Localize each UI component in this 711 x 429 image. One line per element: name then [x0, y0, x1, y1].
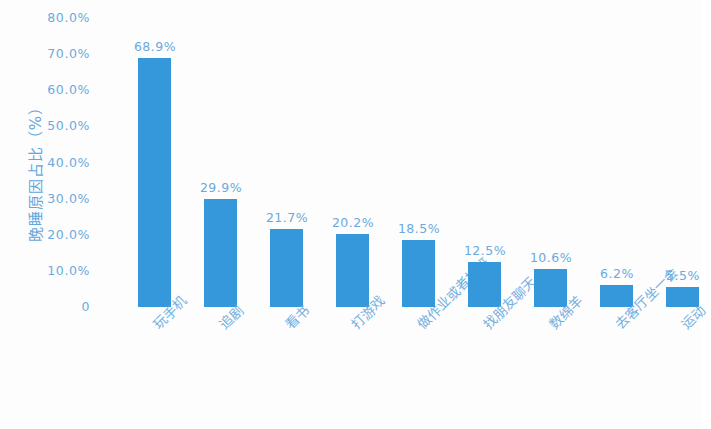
- bar[interactable]: [336, 234, 369, 307]
- bar-value-label: 18.5%: [378, 221, 460, 236]
- y-axis-tick-label: 60.0%: [6, 82, 90, 97]
- bar-group: 20.2%打游戏: [320, 0, 386, 429]
- y-axis-tick-label: 10.0%: [6, 263, 90, 278]
- bar-group: 6.2%去客厅坐一会: [584, 0, 650, 429]
- y-axis-tick-label: 20.0%: [6, 227, 90, 242]
- bar-group: 18.5%做作业或者加班: [386, 0, 452, 429]
- plot-area: 68.9%玩手机29.9%追剧21.7%看书20.2%打游戏18.5%做作业或者…: [96, 0, 701, 429]
- bar[interactable]: [204, 199, 237, 307]
- bar-group: 10.6%数绵羊: [518, 0, 584, 429]
- bar-group: 5.5%运动: [650, 0, 711, 429]
- bar-group: 12.5%找朋友聊天: [452, 0, 518, 429]
- y-axis-tick-label: 0: [6, 299, 90, 314]
- bar-value-label: 29.9%: [180, 180, 262, 195]
- bar[interactable]: [402, 240, 435, 307]
- bar-value-label: 10.6%: [510, 250, 592, 265]
- y-axis-tick-label: 70.0%: [6, 46, 90, 61]
- bar-group: 68.9%玩手机: [122, 0, 188, 429]
- bar-value-label: 68.9%: [114, 39, 196, 54]
- bar[interactable]: [138, 58, 171, 307]
- y-axis-tick-label: 40.0%: [6, 155, 90, 170]
- bar-group: 21.7%看书: [254, 0, 320, 429]
- bar-value-label: 5.5%: [642, 268, 711, 283]
- y-axis-tick-label: 50.0%: [6, 118, 90, 133]
- bar-group: 29.9%追剧: [188, 0, 254, 429]
- y-axis-tick-list: 80.0%70.0%60.0%50.0%40.0%30.0%20.0%10.0%…: [6, 0, 90, 429]
- y-axis-tick-label: 30.0%: [6, 191, 90, 206]
- y-axis-tick-label: 80.0%: [6, 10, 90, 25]
- bar[interactable]: [270, 229, 303, 307]
